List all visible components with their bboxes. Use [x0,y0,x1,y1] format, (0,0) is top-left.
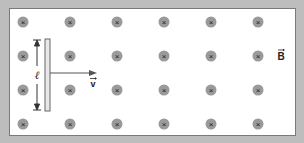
field-into-page-icon: × [253,85,264,96]
svg-text:×: × [21,86,26,95]
field-into-page-icon: × [253,17,264,28]
svg-text:×: × [209,18,214,27]
field-into-page-icon: × [18,85,29,96]
svg-text:×: × [115,86,120,95]
field-into-page-icon: × [18,17,29,28]
svg-text:×: × [68,52,73,61]
field-into-page-icon: × [159,17,170,28]
svg-text:×: × [21,52,26,61]
field-into-page-icon: × [65,17,76,28]
field-into-page-icon: × [159,51,170,62]
field-into-page-icon: × [65,119,76,130]
svg-text:B: B [277,51,284,62]
svg-text:×: × [256,120,261,129]
svg-text:×: × [68,18,73,27]
svg-text:×: × [115,18,120,27]
field-into-page-icon: × [206,119,217,130]
svg-text:×: × [162,18,167,27]
field-into-page-icon: × [65,85,76,96]
field-into-page-icon: × [253,119,264,130]
svg-text:×: × [21,120,26,129]
magnetic-field-label: B [277,49,285,62]
field-into-page-icon: × [112,51,123,62]
svg-text:×: × [209,120,214,129]
svg-text:×: × [209,52,214,61]
svg-text:×: × [115,120,120,129]
svg-text:×: × [21,18,26,27]
field-into-page-icon: × [18,119,29,130]
svg-text:×: × [256,86,261,95]
svg-text:×: × [256,18,261,27]
svg-text:×: × [68,120,73,129]
field-into-page-icon: × [112,119,123,130]
field-into-page-icon: × [253,51,264,62]
velocity-arrow [50,70,97,76]
svg-text:×: × [162,52,167,61]
conducting-rod [45,39,50,111]
field-into-page-icon: × [159,85,170,96]
field-into-page-icon: × [206,17,217,28]
svg-text:×: × [256,52,261,61]
field-into-page-icon: × [18,51,29,62]
svg-text:×: × [162,86,167,95]
velocity-label: v [90,77,97,89]
field-into-page-icon: × [159,119,170,130]
svg-text:×: × [209,86,214,95]
field-into-page-icon: × [112,17,123,28]
field-into-page-icon: × [112,85,123,96]
svg-text:×: × [115,52,120,61]
diagram-canvas: ×××××××××××××××××××××××× ℓ v B [0,0,304,143]
field-into-page-icon: × [206,51,217,62]
svg-text:×: × [68,86,73,95]
svg-text:×: × [162,120,167,129]
field-into-page-icon: × [206,85,217,96]
svg-text:v: v [90,79,95,89]
field-into-page-icon: × [65,51,76,62]
length-label: ℓ [35,69,40,81]
